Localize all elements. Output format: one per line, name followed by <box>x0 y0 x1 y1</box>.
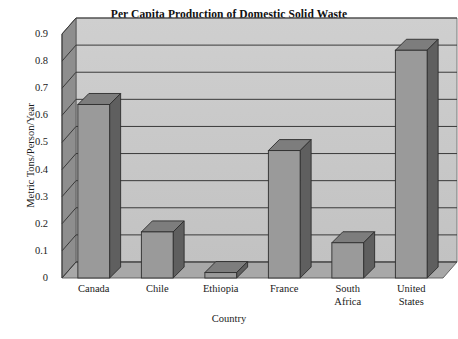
bar-side-face <box>300 140 311 278</box>
bar-front-face <box>395 50 427 278</box>
bar-front-face <box>268 151 300 278</box>
y-axis-label: Metric Tons/Person/Year <box>25 66 36 246</box>
x-axis-tick-line: United <box>371 283 451 296</box>
chart-geometry <box>62 18 457 278</box>
bar-front-face <box>332 243 364 278</box>
y-axis-tick-label: 0.1 <box>14 246 48 256</box>
x-axis-tick-line: States <box>371 296 451 309</box>
bar-front-face <box>205 273 237 278</box>
chart-figure: Per Capita Production of Domestic Solid … <box>0 0 458 339</box>
bar-front-face <box>78 104 110 278</box>
bar-side-face <box>427 39 438 278</box>
x-axis-tick-label: UnitedStates <box>371 283 451 308</box>
left-wall <box>62 18 76 278</box>
x-axis-label: Country <box>0 313 458 324</box>
bar-side-face <box>110 93 121 278</box>
y-axis-tick-label: 0 <box>14 273 48 283</box>
bar-front-face <box>141 232 173 278</box>
y-axis-tick-label: 0.9 <box>14 29 48 39</box>
